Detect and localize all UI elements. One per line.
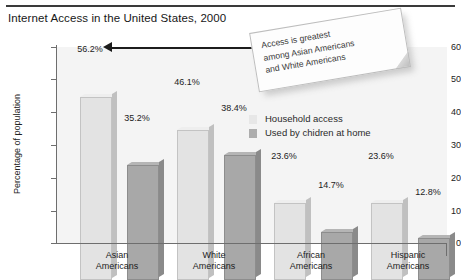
x-label-line-1: Hispanic bbox=[363, 250, 453, 261]
y-tick-30 bbox=[51, 145, 56, 146]
legend-label: Used by chidren at home bbox=[265, 127, 371, 138]
y-axis-title: Percentage of population bbox=[12, 64, 22, 224]
y-tick-20 bbox=[51, 178, 56, 179]
x-label-line-1: African bbox=[266, 250, 356, 261]
callout-arrow-line bbox=[110, 47, 255, 49]
bar-value-white-household: 46.1% bbox=[157, 77, 217, 87]
x-label-line-2: Americans bbox=[169, 261, 259, 272]
callout-note-paper: Access is greatest among Asian Americans… bbox=[249, 8, 411, 93]
y-tick-60 bbox=[51, 47, 56, 48]
legend-label: Household access bbox=[265, 113, 343, 124]
legend-swatch-icon bbox=[249, 129, 257, 138]
callout-note-text: Access is greatest among Asian Americans… bbox=[260, 17, 400, 76]
callout-note: Access is greatest among Asian Americans… bbox=[251, 16, 431, 98]
y-axis-line bbox=[56, 45, 57, 244]
y-tick-40 bbox=[51, 112, 56, 113]
bar-value-white-children: 38.4% bbox=[204, 103, 264, 113]
callout-arrow-head-icon bbox=[103, 42, 112, 52]
title-rule bbox=[6, 5, 455, 7]
x-label-line-2: Americans bbox=[363, 261, 453, 272]
callout-note-fold-corner-icon bbox=[394, 52, 411, 69]
x-label-asian-americans: Asian Americans bbox=[72, 250, 162, 272]
bar-value-asian-children: 35.2% bbox=[107, 113, 167, 123]
chart-title: Internet Access in the United States, 20… bbox=[8, 12, 226, 24]
x-label-african-americans: African Americans bbox=[266, 250, 356, 272]
bar-value-african-household: 23.6% bbox=[254, 151, 314, 161]
x-label-hispanic-americans: Hispanic Americans bbox=[363, 250, 453, 272]
y-tick-10 bbox=[51, 211, 56, 212]
x-label-line-2: Americans bbox=[72, 261, 162, 272]
x-axis-line bbox=[56, 243, 447, 244]
y-tick-50 bbox=[51, 79, 56, 80]
x-label-white-americans: White Americans bbox=[169, 250, 259, 272]
bar-value-african-children: 14.7% bbox=[301, 180, 361, 190]
legend-swatch-icon bbox=[249, 115, 257, 124]
bar-value-hispanic-household: 23.6% bbox=[351, 151, 411, 161]
x-label-line-1: Asian bbox=[72, 250, 162, 261]
chart-figure: Internet Access in the United States, 20… bbox=[0, 0, 461, 280]
bar-value-hispanic-children: 12.8% bbox=[398, 187, 458, 197]
x-label-line-2: Americans bbox=[266, 261, 356, 272]
x-label-line-1: White bbox=[169, 250, 259, 261]
